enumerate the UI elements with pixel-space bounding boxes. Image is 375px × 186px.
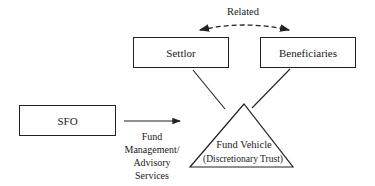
related-dashed-arrow — [200, 25, 289, 30]
settlor-connector-line — [193, 70, 225, 109]
services-label-line2: Management/ — [112, 143, 192, 156]
sfo-label: SFO — [57, 115, 77, 127]
settlor-box: Settlor — [133, 37, 229, 68]
services-label: Fund Management/ Advisory Services — [112, 130, 192, 182]
sfo-box: SFO — [19, 105, 116, 136]
services-label-line4: Services — [112, 169, 192, 182]
settlor-label: Settlor — [166, 47, 195, 59]
beneficiaries-box: Beneficiaries — [260, 37, 356, 68]
beneficiaries-connector-line — [252, 69, 290, 108]
fund-vehicle-sublabel: (Discretionary Trust) — [191, 153, 295, 165]
services-label-line3: Advisory — [112, 156, 192, 169]
services-label-line1: Fund — [112, 130, 192, 143]
related-label: Related — [213, 6, 273, 18]
fund-vehicle-label: Fund Vehicle — [196, 139, 292, 151]
beneficiaries-label: Beneficiaries — [279, 47, 337, 59]
